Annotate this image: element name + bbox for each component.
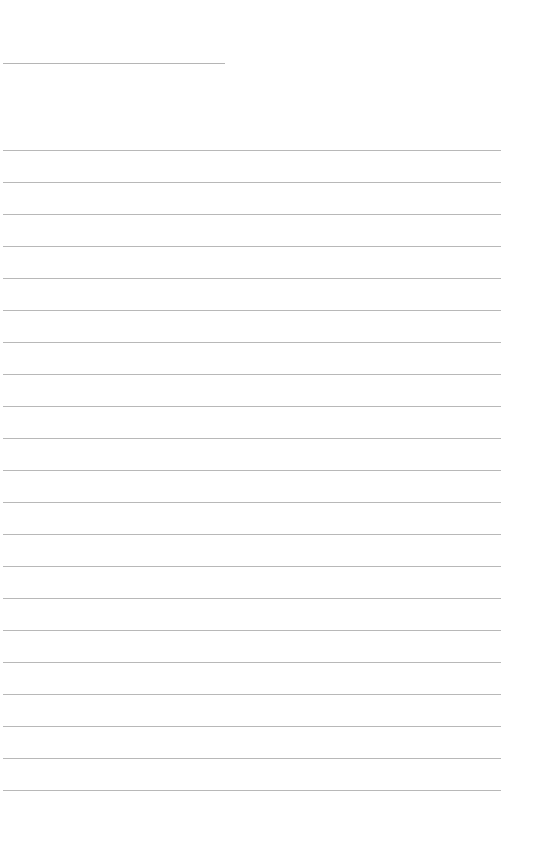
ruled-line [3,790,501,791]
ruled-line [3,342,501,343]
header-name-line [3,63,225,64]
ruled-line [3,438,501,439]
ruled-line [3,566,501,567]
ruled-line [3,726,501,727]
ruled-line [3,374,501,375]
ruled-line [3,662,501,663]
ruled-line [3,470,501,471]
ruled-line [3,534,501,535]
ruled-line [3,502,501,503]
ruled-line [3,310,501,311]
ruled-line [3,406,501,407]
ruled-line [3,246,501,247]
ruled-line [3,182,501,183]
ruled-line [3,630,501,631]
ruled-line [3,598,501,599]
ruled-line [3,150,501,151]
ruled-line [3,694,501,695]
ruled-line [3,758,501,759]
ruled-line [3,278,501,279]
ruled-line [3,214,501,215]
